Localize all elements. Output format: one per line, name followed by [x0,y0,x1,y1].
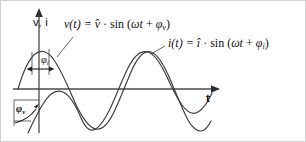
voltage-paren-close: ) [166,17,170,31]
current-sin-function: sin [210,36,224,50]
waveform-figure: v, i t v(t) = v̂ · sin (ωt + φv) i(t) = … [0,0,306,142]
x-axis-label: t [206,93,210,105]
voltage-equation-equals: = [84,17,92,31]
voltage-equation: v(t) = v̂ · sin (ωt + φv) [64,18,170,32]
y-axis-label: v, i [33,17,48,29]
current-equation-lhs: i(t) [168,36,183,50]
current-equation-equals: = [186,36,194,50]
current-omega-t: ωt [231,36,243,50]
horizontal-time-axis [13,85,220,93]
phi-v-subscript: v [22,108,25,116]
phi-i-subscript: i [47,59,49,67]
phi-i-annotation: φi [41,55,49,67]
voltage-equation-lhs: v(t) [64,17,81,31]
current-waveform-curve [28,52,212,133]
voltage-omega-t: ωt [131,17,143,31]
current-equation-leader-line [151,46,165,54]
phi-v-annotation: φv [16,104,25,116]
voltage-sin-function: sin [110,17,124,31]
current-plus-sign: + [246,36,253,50]
voltage-plus-sign: + [146,17,153,31]
current-equation: i(t) = î · sin (ωt + φi) [168,37,269,51]
current-paren-close: ) [265,36,269,50]
voltage-equation-leader-line [57,37,73,57]
